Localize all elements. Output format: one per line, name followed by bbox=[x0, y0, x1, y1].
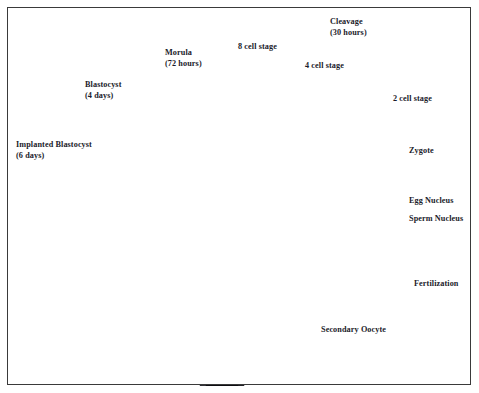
label-blastocyst: Blastocyst(4 days) bbox=[85, 80, 121, 101]
label-four-cell-stage: 4 cell stage bbox=[305, 61, 344, 72]
figure-canvas: Implanted Blastocyst(6 days) Blastocyst(… bbox=[0, 0, 479, 393]
label-morula: Morula(72 hours) bbox=[165, 48, 202, 69]
label-cleavage: Cleavage(30 hours) bbox=[330, 17, 367, 38]
label-sperm-nucleus: Sperm Nucleus bbox=[409, 214, 463, 225]
label-implanted-blastocyst: Implanted Blastocyst(6 days) bbox=[16, 140, 92, 161]
label-zygote: Zygote bbox=[409, 146, 434, 157]
label-egg-nucleus: Egg Nucleus bbox=[409, 196, 454, 207]
label-secondary-oocyte: Secondary Oocyte bbox=[321, 325, 386, 336]
figure-border bbox=[7, 7, 471, 385]
label-fertilization: Fertilization bbox=[414, 279, 459, 290]
label-eight-cell-stage: 8 cell stage bbox=[238, 42, 277, 53]
label-two-cell-stage: 2 cell stage bbox=[393, 94, 432, 105]
